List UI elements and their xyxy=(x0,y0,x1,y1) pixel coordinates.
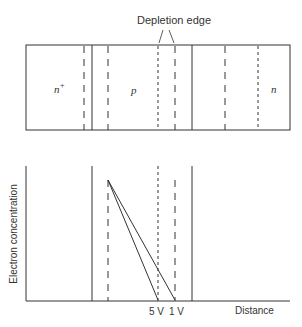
y-axis-label: Electron concentration xyxy=(9,178,19,290)
annotation-leader xyxy=(159,30,163,43)
x-axis-label: Distance xyxy=(235,306,274,316)
bias-label-1v: 1 V xyxy=(169,307,184,317)
region-label-p: p xyxy=(131,85,137,96)
device-box xyxy=(26,45,290,130)
region-label-n-plus: n+ xyxy=(54,82,65,95)
region-label-n: n xyxy=(271,84,277,95)
bias-label-5v: 5 V xyxy=(149,307,164,317)
region-label-superscript: + xyxy=(60,81,65,90)
depletion-edge-label: Depletion edge xyxy=(137,15,211,26)
curve-1v xyxy=(108,180,175,300)
annotation-leader xyxy=(169,30,174,43)
diagram-canvas xyxy=(0,0,302,327)
curve-5v xyxy=(108,180,158,300)
